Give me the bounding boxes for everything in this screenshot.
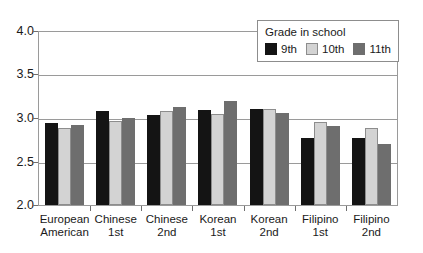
x-axis-label: Filipino1st xyxy=(295,213,346,239)
legend-label: 10th xyxy=(322,43,344,55)
x-tick-mark xyxy=(295,206,296,211)
bar xyxy=(71,125,84,205)
legend-swatch-icon xyxy=(306,43,318,55)
bar xyxy=(211,114,224,205)
bar xyxy=(109,121,122,205)
legend-items: 9th10th11th xyxy=(265,43,391,55)
x-axis-label-line2: 2nd xyxy=(141,226,192,239)
x-axis-label: Filipino2nd xyxy=(346,213,397,239)
y-tick-label-0: 2.0 xyxy=(0,199,34,212)
legend: Grade in school 9th10th11th xyxy=(257,20,399,62)
legend-swatch-icon xyxy=(353,43,365,55)
bar xyxy=(327,126,340,205)
bar xyxy=(250,109,263,205)
legend-label: 11th xyxy=(369,43,391,55)
x-axis-label-line2: American xyxy=(39,226,90,239)
bar xyxy=(365,128,378,205)
x-tick-mark xyxy=(244,206,245,211)
x-tick-mark xyxy=(90,206,91,211)
x-tick-mark xyxy=(141,206,142,211)
bar xyxy=(173,107,186,205)
y-tick-label-3: 3.5 xyxy=(0,68,34,81)
x-axis-label: Chinese1st xyxy=(90,213,141,239)
bar xyxy=(378,144,391,205)
x-tick-mark xyxy=(346,206,347,211)
legend-swatch-icon xyxy=(265,43,277,55)
bar xyxy=(160,111,173,205)
bar xyxy=(96,111,109,205)
legend-item: 9th xyxy=(265,43,297,55)
bar xyxy=(147,115,160,205)
legend-item: 11th xyxy=(353,43,391,55)
legend-item: 10th xyxy=(306,43,344,55)
x-tick-mark xyxy=(192,206,193,211)
bar-group xyxy=(192,32,243,205)
bar-group xyxy=(39,32,90,205)
x-axis-label-line1: Chinese xyxy=(146,213,188,225)
bar-chart: 4.0 3.5 3.0 2.5 2.0 EuropeanAmericanChin… xyxy=(0,0,423,253)
x-axis-label-line2: 1st xyxy=(192,226,243,239)
bar xyxy=(301,138,314,205)
bar xyxy=(314,122,327,205)
x-axis-label-line2: 2nd xyxy=(346,226,397,239)
bar xyxy=(45,123,58,205)
x-axis-label-line1: Chinese xyxy=(95,213,137,225)
x-axis-label-line2: 2nd xyxy=(244,226,295,239)
bar-group xyxy=(90,32,141,205)
legend-label: 9th xyxy=(281,43,297,55)
y-tick-label-2: 3.0 xyxy=(0,112,34,125)
x-axis-label-line2: 1st xyxy=(295,226,346,239)
x-axis-label-line1: Korean xyxy=(251,213,288,225)
x-axis-label-line2: 1st xyxy=(90,226,141,239)
bar xyxy=(224,101,237,205)
bar xyxy=(276,113,289,205)
x-axis-label-line1: Filipino xyxy=(302,213,338,225)
x-axis-label-line1: Filipino xyxy=(353,213,389,225)
bar xyxy=(122,118,135,205)
x-axis-label-line1: European xyxy=(40,213,90,225)
bar xyxy=(263,109,276,205)
bar-group xyxy=(141,32,192,205)
x-axis-label: Korean1st xyxy=(192,213,243,239)
x-axis-label-line1: Korean xyxy=(199,213,236,225)
x-axis-label: Chinese2nd xyxy=(141,213,192,239)
bar xyxy=(352,138,365,205)
x-axis-label: EuropeanAmerican xyxy=(39,213,90,239)
bar xyxy=(198,110,211,205)
x-axis-label: Korean2nd xyxy=(244,213,295,239)
legend-title: Grade in school xyxy=(265,26,391,39)
y-tick-label-4: 4.0 xyxy=(0,25,34,38)
y-tick-label-1: 2.5 xyxy=(0,156,34,169)
bar xyxy=(58,128,71,205)
